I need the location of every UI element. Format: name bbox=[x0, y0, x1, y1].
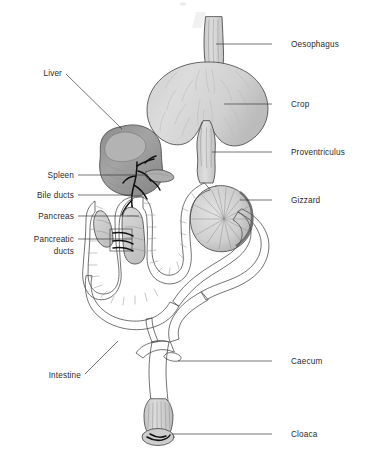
avian-digestive-system-illustration: Oesophagus Crop Proventriculus Gizzard C… bbox=[0, 0, 369, 461]
label-pancreatic-ducts-line-1: Pancreatic bbox=[34, 235, 74, 244]
label-oesophagus: Oesophagus bbox=[291, 40, 339, 49]
label-crop: Crop bbox=[291, 100, 310, 109]
diagram-canvas: Oesophagus Crop Proventriculus Gizzard C… bbox=[0, 0, 369, 461]
label-proventriculus: Proventriculus bbox=[291, 148, 345, 157]
label-liver: Liver bbox=[44, 69, 63, 78]
label-cloaca: Cloaca bbox=[291, 430, 318, 439]
label-pancreatic-ducts-line-2: ducts bbox=[54, 247, 74, 256]
liver-organ bbox=[100, 125, 163, 196]
label-intestine: Intestine bbox=[49, 371, 82, 380]
label-pancreas: Pancreas bbox=[38, 212, 74, 221]
leader-intestine bbox=[85, 341, 118, 374]
label-caecum: Caecum bbox=[291, 357, 322, 366]
cloaca-organ bbox=[142, 399, 174, 446]
label-spleen: Spleen bbox=[48, 171, 75, 180]
label-bile-ducts: Bile ducts bbox=[37, 191, 74, 200]
label-gizzard: Gizzard bbox=[291, 196, 321, 205]
scan-artifact bbox=[180, 2, 206, 28]
leader-liver bbox=[66, 74, 122, 129]
